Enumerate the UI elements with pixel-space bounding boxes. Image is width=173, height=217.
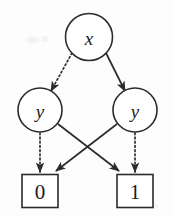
node-leaf-one[interactable]: 1 bbox=[117, 175, 153, 208]
node-leaf-zero[interactable]: 0 bbox=[22, 175, 58, 208]
node-layer: x y y 0 1 bbox=[18, 14, 157, 208]
edge-y-left-to-one bbox=[58, 124, 119, 171]
edge-x-to-y-left bbox=[51, 53, 72, 91]
edge-x-to-y-right bbox=[106, 53, 125, 91]
node-leaf-zero-label: 0 bbox=[35, 180, 46, 204]
node-y-right[interactable]: y bbox=[113, 88, 157, 132]
node-y-left[interactable]: y bbox=[18, 88, 62, 132]
edge-y-right-to-zero bbox=[56, 124, 117, 171]
node-y-left-label: y bbox=[34, 101, 45, 122]
node-leaf-one-label: 1 bbox=[130, 180, 141, 204]
node-x-root-label: x bbox=[84, 28, 94, 49]
graph-svg: x y y 0 1 bbox=[0, 0, 173, 217]
diagram-canvas: x y y 0 1 bbox=[0, 0, 173, 217]
node-x-root[interactable]: x bbox=[66, 14, 113, 61]
node-y-right-label: y bbox=[129, 101, 140, 122]
